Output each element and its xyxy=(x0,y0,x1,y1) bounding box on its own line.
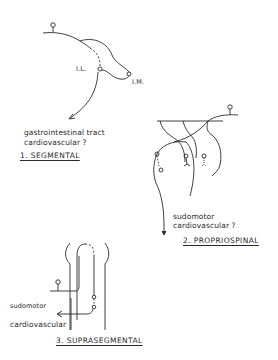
suprasegmental-output-line1: sudomotor xyxy=(10,302,46,311)
propriospinal-title: 2. PROPRIOSPINAL xyxy=(183,236,259,245)
arrow-head-icon xyxy=(162,231,166,235)
il-label: I.L. xyxy=(76,65,86,74)
im-neuron-icon xyxy=(127,72,131,76)
propriospinal-output-line2: cardiovascular ? xyxy=(173,221,236,230)
il-to-im-connection xyxy=(102,70,129,79)
im-label: I.M. xyxy=(132,78,144,87)
efferent-fiber xyxy=(70,72,98,118)
segmental-pathway xyxy=(43,23,131,119)
sensory-cell-body-icon xyxy=(228,105,232,109)
suprasegmental-pathway xyxy=(50,243,109,330)
loop-to-im xyxy=(80,39,129,72)
sensory-cell-body-icon xyxy=(56,280,60,284)
il-neuron-icon xyxy=(98,67,102,71)
segmental-output-line2: cardiovascular ? xyxy=(24,138,87,147)
dashed-collateral xyxy=(90,48,100,66)
segmental-output-line1: gastrointestinal tract xyxy=(24,128,105,137)
sensory-cell-body-icon xyxy=(51,23,55,27)
segmental-title: 1. SEGMENTAL xyxy=(20,151,80,160)
suprasegmental-output-line2: cardiovascular xyxy=(10,320,66,329)
suprasegmental-title: 3. SUPRASEGMENTAL xyxy=(56,336,143,345)
propriospinal-output-line1: sudomotor xyxy=(173,212,214,221)
dorsal-root-fiber xyxy=(208,115,238,121)
